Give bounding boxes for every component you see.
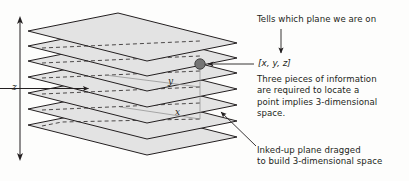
annotation-tells-which-plane: Tells which plane we are on [257,14,376,25]
annotation-three-pieces-of-information: Three pieces of information are required… [257,74,377,120]
point-marker [195,59,205,69]
plane-stack [28,13,237,155]
figure-canvas: y x z Tells which plane we are on [x, y,… [0,0,409,181]
point-coordinate-label: [x, y, z] [258,58,291,69]
axis-label-y: y [167,76,174,86]
axis-label-x: x [175,107,180,117]
leader-bottom [221,112,256,146]
annotation-inked-up-plane: Inked-up plane dragged to build 3-dimens… [257,145,382,168]
axis-label-z: z [12,82,17,92]
